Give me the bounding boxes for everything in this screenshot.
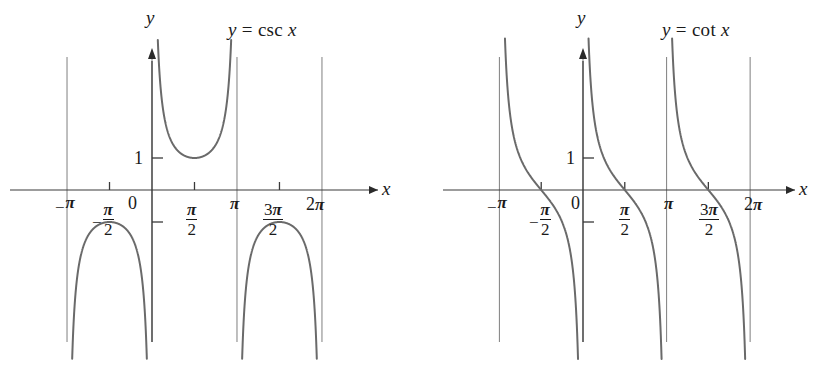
x-tick-label-2pi: 2π [306,195,324,213]
y-axis-arrowhead [148,48,156,59]
title-y: y [662,19,671,40]
pi-glyph: π [230,194,239,213]
fraction-numerator: π [619,201,630,220]
minus-sign: − [487,199,498,216]
origin-label: 0 [128,194,137,212]
x-axis-label: x [799,179,807,198]
x-axis-arrowhead [786,186,795,194]
chart-title-cot: y = cot x [662,20,730,39]
x-tick-label-pi-over-2: π2 [619,201,630,238]
minus-sign: − [92,214,103,231]
title-y: y [228,19,237,40]
fraction-numerator: π [186,201,197,220]
fraction-denominator: 2 [699,220,719,238]
x-tick-label-2pi: 2π [744,195,762,213]
title-function-name: csc [258,19,283,40]
chart-cot: y x y = cot x 1 0 −π −π2 π2 π 3π2 2π [411,0,822,371]
x-tick-label-neg-pi: −π [487,194,507,213]
fraction-pi-over-2: π2 [619,201,630,238]
pi-glyph: π [273,200,282,219]
chart-cot-canvas [411,0,822,371]
x-tick-label-pi-over-2: π2 [186,201,197,238]
curve-branch-2 [158,40,231,158]
chart-csc-canvas [0,0,411,371]
fraction-numerator: π [103,201,114,220]
pi-glyph: π [498,193,507,212]
x-tick-label-pi: π [230,195,239,212]
title-x: x [288,19,297,40]
coefficient-2: 2 [306,194,315,214]
fraction-pi-over-2: π2 [186,201,197,238]
chart-csc: y x y = csc x 1 0 −π −π2 π2 π 3π2 2π [0,0,411,371]
numerator-coefficient: 3 [264,200,273,219]
minus-sign: − [529,214,540,231]
fraction-numerator: 3π [699,201,719,220]
y-axis-label: y [146,8,154,27]
y-axis-arrowhead [579,48,587,59]
x-tick-label-neg-pi-over-2: −π2 [92,201,114,238]
pi-glyph: π [753,195,762,214]
fraction-denominator: 2 [263,220,283,238]
y-tick-label-1: 1 [566,149,575,167]
pi-glyph: π [664,194,673,213]
x-tick-label-neg-pi: −π [55,194,75,213]
x-axis-arrowhead [369,186,378,194]
fraction-3pi-over-2: 3π2 [699,201,719,238]
title-equals: = [676,19,687,40]
curve-branch-1 [505,38,578,358]
title-function-name: cot [692,19,716,40]
curve-branch-2 [589,38,662,358]
fraction-numerator: π [540,201,551,220]
fraction-denominator: 2 [186,220,197,238]
pi-glyph: π [66,193,75,212]
curve-branch-1 [72,222,147,359]
numerator-coefficient: 3 [700,200,709,219]
fraction-denominator: 2 [540,220,551,238]
y-axis-label: y [577,8,585,27]
fraction-numerator: 3π [263,201,283,220]
pi-glyph: π [709,200,718,219]
fraction-3pi-over-2: 3π2 [263,201,283,238]
curve-branch-3 [242,222,317,359]
trig-graphs-figure: y x y = csc x 1 0 −π −π2 π2 π 3π2 2π [0,0,822,371]
fraction-denominator: 2 [619,220,630,238]
x-tick-label-3pi-over-2: 3π2 [263,201,283,238]
x-tick-label-3pi-over-2: 3π2 [699,201,719,238]
x-tick-label-pi: π [664,195,673,212]
x-axis-label: x [382,179,390,198]
x-tick-label-neg-pi-over-2: −π2 [529,201,551,238]
y-tick-label-1: 1 [134,149,143,167]
curve-branch-3 [672,38,745,358]
title-x: x [721,19,730,40]
pi-glyph: π [315,195,324,214]
title-equals: = [242,19,253,40]
minus-sign: − [55,199,66,216]
chart-title-csc: y = csc x [228,20,297,39]
fraction-pi-over-2: π2 [540,201,551,238]
coefficient-2: 2 [744,194,753,214]
fraction-denominator: 2 [103,220,114,238]
fraction-pi-over-2: π2 [103,201,114,238]
origin-label: 0 [571,194,580,212]
